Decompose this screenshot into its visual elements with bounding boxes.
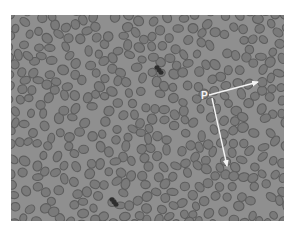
red-blood-cells xyxy=(11,15,284,221)
blood-smear-micrograph xyxy=(11,15,284,221)
platelet-label: P xyxy=(201,91,208,101)
